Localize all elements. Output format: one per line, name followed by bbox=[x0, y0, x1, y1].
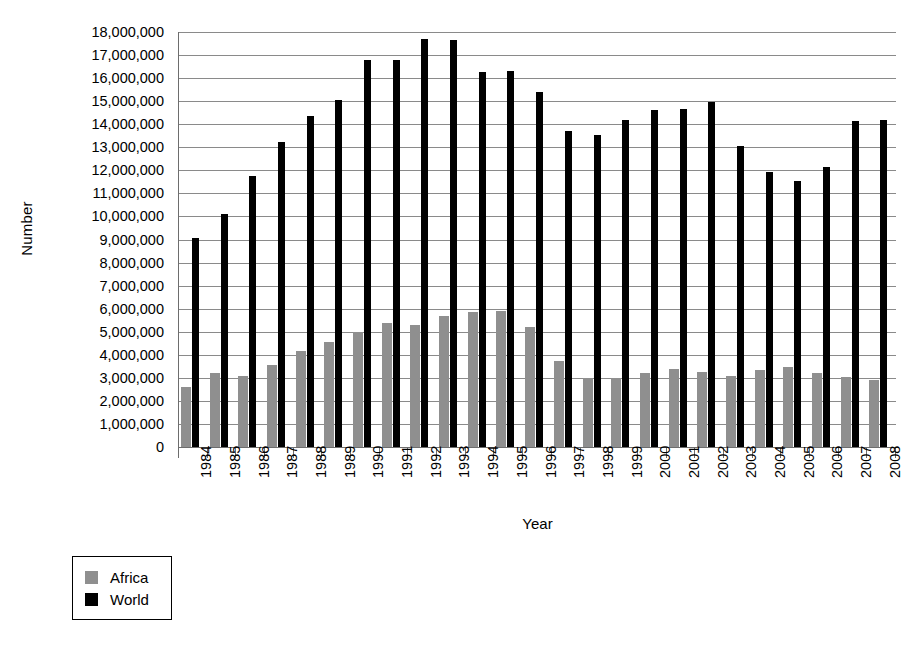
x-axis-tick-label: 1988 bbox=[313, 418, 329, 478]
x-axis-tick-label: 1987 bbox=[284, 418, 300, 478]
bar-group bbox=[294, 32, 323, 447]
bar-world-1996 bbox=[536, 92, 543, 447]
y-axis-tick-label: 10,000,000 bbox=[36, 209, 164, 223]
bar-group bbox=[380, 32, 409, 447]
x-axis-tick-label: 1996 bbox=[543, 418, 559, 478]
bar-world-1997 bbox=[565, 131, 572, 447]
x-axis-tick-label: 1997 bbox=[571, 418, 587, 478]
x-axis-tick-label: 2003 bbox=[743, 418, 759, 478]
bar-group bbox=[724, 32, 753, 447]
legend-item-africa: Africa bbox=[85, 566, 149, 588]
y-axis-tick-label: 1,000,000 bbox=[36, 417, 164, 431]
x-axis-tick-label: 1992 bbox=[428, 418, 444, 478]
legend-swatch-africa bbox=[85, 571, 98, 584]
bar-world-2002 bbox=[708, 102, 715, 447]
y-axis-tick-label: 5,000,000 bbox=[36, 325, 164, 339]
x-axis-tick-label: 1999 bbox=[629, 418, 645, 478]
bar-world-1990 bbox=[364, 60, 371, 447]
bar-group bbox=[208, 32, 237, 447]
y-axis-title: Number bbox=[18, 169, 35, 289]
x-axis-tick-label: 1993 bbox=[456, 418, 472, 478]
bar-group bbox=[609, 32, 638, 447]
y-axis-tick-label: 11,000,000 bbox=[36, 186, 164, 200]
y-axis-tick-label: 2,000,000 bbox=[36, 394, 164, 408]
x-axis-tick-label: 1995 bbox=[514, 418, 530, 478]
y-axis-tick-label: 3,000,000 bbox=[36, 371, 164, 385]
x-axis-tick-label: 1985 bbox=[227, 418, 243, 478]
y-axis-tick-label: 4,000,000 bbox=[36, 348, 164, 362]
bar-world-1984 bbox=[192, 238, 199, 447]
bar-group bbox=[638, 32, 667, 447]
bar-group bbox=[466, 32, 495, 447]
bar-africa-1984 bbox=[181, 387, 191, 447]
bar-group bbox=[179, 32, 208, 447]
bar-group bbox=[322, 32, 351, 447]
bar-group bbox=[753, 32, 782, 447]
x-axis-tick-label: 2004 bbox=[772, 418, 788, 478]
x-axis-tick-label: 2005 bbox=[801, 418, 817, 478]
y-axis-tick-label: 16,000,000 bbox=[36, 71, 164, 85]
bar-world-1985 bbox=[221, 214, 228, 447]
bar-world-1993 bbox=[450, 40, 457, 447]
x-axis-tick-label: 2001 bbox=[686, 418, 702, 478]
bar-group bbox=[351, 32, 380, 447]
x-axis-tick-label: 1990 bbox=[370, 418, 386, 478]
bar-world-1992 bbox=[421, 39, 428, 447]
chart-legend: Africa World bbox=[72, 556, 172, 620]
y-axis-tick-label: 14,000,000 bbox=[36, 117, 164, 131]
bar-group bbox=[523, 32, 552, 447]
bar-group bbox=[408, 32, 437, 447]
bar-group bbox=[867, 32, 896, 447]
y-axis-tick-label: 0 bbox=[36, 440, 164, 454]
bar-world-1994 bbox=[479, 72, 486, 447]
bar-world-1986 bbox=[249, 176, 256, 447]
bar-group bbox=[781, 32, 810, 447]
y-axis-tick-label: 6,000,000 bbox=[36, 302, 164, 316]
legend-item-world: World bbox=[85, 588, 149, 610]
bar-group bbox=[667, 32, 696, 447]
legend-swatch-world bbox=[85, 593, 98, 606]
x-axis-tick-label: 2002 bbox=[715, 418, 731, 478]
x-axis-tick-label: 2006 bbox=[829, 418, 845, 478]
bar-world-1987 bbox=[278, 142, 285, 447]
bar-world-2000 bbox=[651, 110, 658, 447]
bar-world-2005 bbox=[794, 181, 801, 447]
bar-world-1995 bbox=[507, 71, 514, 447]
x-axis-tick-label: 1984 bbox=[198, 418, 214, 478]
plot-area bbox=[178, 32, 896, 448]
bar-world-2001 bbox=[680, 109, 687, 447]
bar-world-1989 bbox=[335, 100, 342, 447]
x-axis-tick-label: 2008 bbox=[887, 418, 903, 478]
x-axis-tick-label: 1986 bbox=[256, 418, 272, 478]
x-axis-tick-label: 1994 bbox=[485, 418, 501, 478]
bar-world-1988 bbox=[307, 116, 314, 447]
bar-world-2006 bbox=[823, 167, 830, 447]
bar-chart: Number 18,000,00017,000,00016,000,00015,… bbox=[0, 0, 917, 655]
bar-world-2004 bbox=[766, 172, 773, 448]
bar-world-1998 bbox=[594, 135, 601, 447]
x-axis-tick-label: 1998 bbox=[600, 418, 616, 478]
bars-layer bbox=[179, 32, 896, 447]
bar-group bbox=[695, 32, 724, 447]
x-axis-tick bbox=[178, 447, 179, 458]
y-axis-tick-labels: 18,000,00017,000,00016,000,00015,000,000… bbox=[36, 32, 164, 447]
legend-label-world: World bbox=[110, 591, 149, 608]
bar-group bbox=[839, 32, 868, 447]
x-axis-tick-labels: 1984198519861987198819891990199119921993… bbox=[178, 460, 897, 516]
bar-group bbox=[494, 32, 523, 447]
x-axis-title: Year bbox=[178, 515, 897, 532]
x-axis-tick-label: 1989 bbox=[342, 418, 358, 478]
bar-group bbox=[236, 32, 265, 447]
bar-world-1991 bbox=[393, 60, 400, 447]
x-axis-tick-label: 2000 bbox=[657, 418, 673, 478]
x-axis-tick-label: 2007 bbox=[858, 418, 874, 478]
y-axis-tick-label: 17,000,000 bbox=[36, 48, 164, 62]
y-axis-tick-label: 8,000,000 bbox=[36, 256, 164, 270]
y-axis-tick-label: 13,000,000 bbox=[36, 140, 164, 154]
bar-world-2003 bbox=[737, 146, 744, 447]
y-axis-tick-label: 9,000,000 bbox=[36, 233, 164, 247]
bar-world-1999 bbox=[622, 120, 629, 447]
bar-group bbox=[265, 32, 294, 447]
y-axis-tick-label: 12,000,000 bbox=[36, 163, 164, 177]
bar-group bbox=[552, 32, 581, 447]
